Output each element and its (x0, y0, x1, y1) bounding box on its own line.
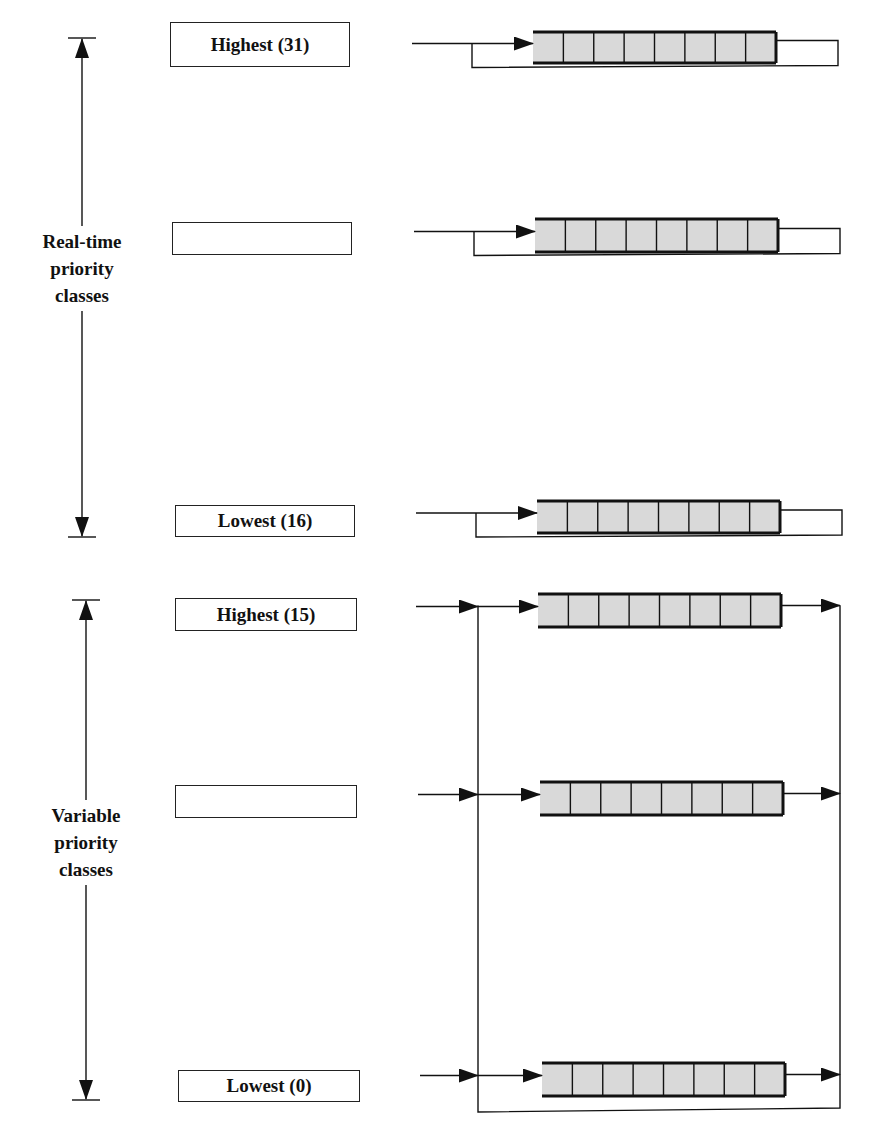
variable-feedback-bus (478, 606, 840, 1113)
priority-axes (68, 38, 100, 1100)
ready-queue (420, 1063, 840, 1096)
ready-queue (412, 32, 838, 68)
priority-level-box: Highest (31) (170, 22, 350, 67)
priority-level-box (175, 785, 357, 818)
ready-queues (412, 32, 842, 1112)
group-label-line: priority (26, 829, 146, 856)
group-label-line: Real-time (22, 228, 142, 255)
priority-queue-diagram (0, 0, 870, 1133)
priority-level-box (172, 222, 352, 255)
real-time-group-label: Real-timepriorityclasses (22, 226, 142, 311)
priority-level-box: Highest (15) (175, 598, 357, 631)
priority-level-box: Lowest (16) (175, 505, 355, 537)
ready-queue (416, 594, 840, 627)
group-label-line: classes (22, 282, 142, 309)
group-label-line: classes (26, 856, 146, 883)
group-label-line: priority (22, 255, 142, 282)
group-label-line: Variable (26, 802, 146, 829)
ready-queue (418, 782, 840, 815)
priority-level-box: Lowest (0) (178, 1070, 360, 1102)
variable-group-label: Variablepriorityclasses (26, 800, 146, 885)
ready-queue (416, 501, 842, 537)
ready-queue (414, 219, 840, 256)
